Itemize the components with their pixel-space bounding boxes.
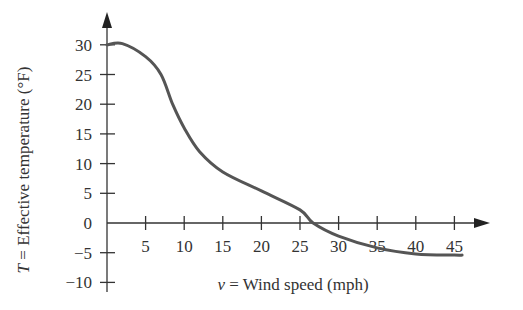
wind-chill-chart: 51015202530354045 302520151050−5−10 T = … [0, 0, 523, 310]
x-tick-label: 5 [141, 237, 150, 256]
y-tick-label: 20 [75, 95, 92, 114]
y-tick-label: 30 [75, 36, 92, 55]
y-tick-label: −5 [74, 244, 92, 263]
y-axis-label: T = Effective temperature (°F) [14, 67, 33, 274]
y-tick-label: 10 [75, 155, 92, 174]
x-tick-label: 25 [292, 237, 309, 256]
x-tick-label: 45 [446, 237, 463, 256]
x-tick-label: 15 [214, 237, 231, 256]
y-tick-label: 25 [75, 66, 92, 85]
x-ticks: 51015202530354045 [141, 216, 463, 256]
x-tick-label: 20 [253, 237, 270, 256]
y-tick-label: 0 [84, 214, 93, 233]
y-tick-label: 15 [75, 125, 92, 144]
x-tick-label: 10 [176, 237, 193, 256]
y-axis-arrow-icon [102, 12, 112, 28]
y-tick-label: −10 [65, 273, 92, 292]
x-axis-label: v = Wind speed (mph) [217, 275, 368, 294]
x-axis-arrow-icon [474, 218, 490, 228]
y-tick-label: 5 [84, 184, 93, 203]
